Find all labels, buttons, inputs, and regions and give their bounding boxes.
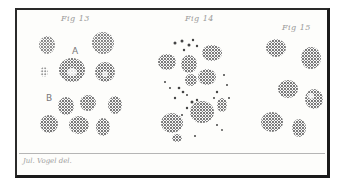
- fig13-group-a: [39, 32, 115, 82]
- figure-plate: Fig 13 A B Fig 14 Fig 15 Jul. Vogel del.: [15, 8, 330, 178]
- cell-illustrations: [17, 10, 327, 153]
- sublabel-a: A: [72, 46, 78, 56]
- fig14-cells: [158, 39, 230, 142]
- caption-divider: [19, 153, 325, 154]
- artist-caption: Jul. Vogel del.: [23, 157, 72, 165]
- fig-15-label: Fig 15: [282, 23, 311, 32]
- fig-14-label: Fig 14: [185, 14, 214, 23]
- fig-13-label: Fig 13: [61, 14, 90, 23]
- fig15-cells: [261, 39, 323, 137]
- fig13-group-b: [40, 95, 122, 136]
- sublabel-b: B: [46, 93, 52, 103]
